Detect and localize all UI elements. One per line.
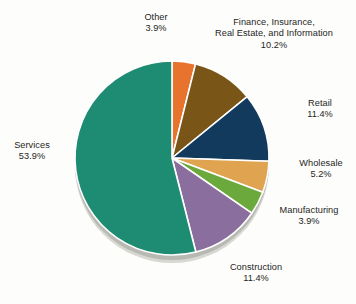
slice-label-other: Other 3.9% [128,12,184,35]
slice-label-manufacturing-value: 3.9% [264,216,354,227]
slice-label-construction: Construction 11.4% [213,262,299,285]
slice-label-finance-name-line2: Real Estate, and Information [196,28,352,39]
pie-slice-group [75,61,269,255]
slice-label-other-name: Other [144,12,167,22]
slice-label-construction-name: Construction [230,262,282,272]
pie-chart: Other 3.9% Finance, Insurance, Real Esta… [0,0,356,304]
slice-label-finance-name-line1: Finance, Insurance, [233,17,315,27]
slice-label-retail-name: Retail [308,98,332,108]
slice-label-wholesale-value: 5.2% [290,169,352,180]
slice-label-wholesale: Wholesale 5.2% [290,158,352,181]
slice-label-finance-value: 10.2% [196,40,352,51]
slice-label-manufacturing-name: Manufacturing [280,205,339,215]
slice-label-other-value: 3.9% [128,23,184,34]
slice-label-wholesale-name: Wholesale [299,158,342,168]
slice-label-services-name: Services [14,140,50,150]
slice-label-retail: Retail 11.4% [291,98,349,121]
slice-label-manufacturing: Manufacturing 3.9% [264,205,354,228]
slice-label-finance: Finance, Insurance, Real Estate, and Inf… [196,17,352,51]
slice-label-services-value: 53.9% [4,151,60,162]
slice-label-construction-value: 11.4% [213,273,299,284]
slice-label-services: Services 53.9% [4,140,60,163]
slice-label-retail-value: 11.4% [291,109,349,120]
